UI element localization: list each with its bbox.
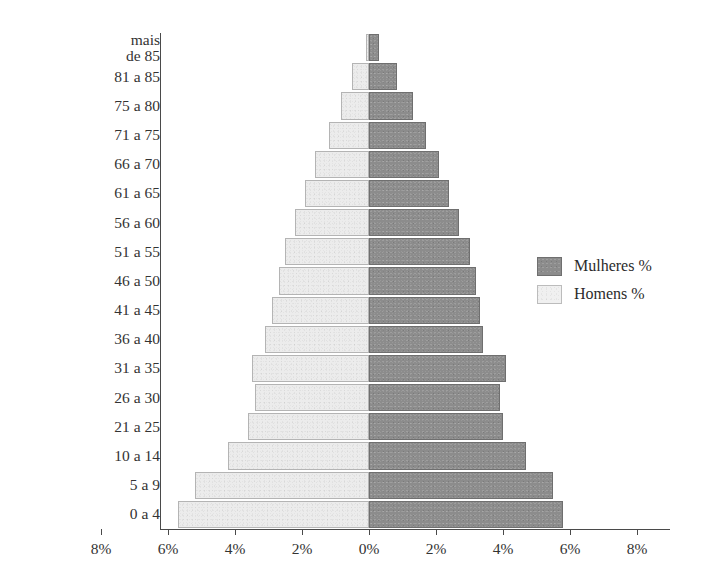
category-label: 61 a 65 — [114, 185, 160, 201]
chart-legend: Mulheres %Homens % — [537, 252, 717, 308]
pyramid-row: 10 a 14 — [0, 441, 726, 470]
x-axis-tick — [436, 529, 437, 535]
bar-homens — [279, 267, 369, 294]
bar-mulheres — [369, 384, 500, 411]
category-label: 71 a 75 — [114, 127, 160, 143]
x-axis-tick-label: 2% — [406, 540, 466, 558]
bar-mulheres — [369, 151, 439, 178]
population-pyramid-chart: mais de 8581 a 8575 a 8071 a 7566 a 7061… — [0, 0, 726, 585]
bar-mulheres — [369, 209, 459, 236]
x-axis-tick-label: 0% — [339, 540, 399, 558]
x-axis-tick — [369, 529, 370, 535]
pyramid-row: 36 a 40 — [0, 325, 726, 354]
category-label: 5 a 9 — [130, 477, 160, 493]
category-label: 41 a 45 — [114, 302, 160, 318]
x-axis-tick-label: 4% — [205, 540, 265, 558]
pyramid-row: 81 a 85 — [0, 62, 726, 91]
x-axis-tick — [302, 529, 303, 535]
category-label: 21 a 25 — [114, 419, 160, 435]
bar-mulheres — [369, 92, 413, 119]
x-axis-tick — [235, 529, 236, 535]
x-axis-tick-label: 8% — [71, 540, 131, 558]
pyramid-row: 56 a 60 — [0, 208, 726, 237]
pyramid-row: 5 a 9 — [0, 471, 726, 500]
bar-mulheres — [369, 122, 426, 149]
legend-item: Homens % — [537, 280, 717, 308]
pyramid-row: 26 a 30 — [0, 383, 726, 412]
legend-label: Mulheres % — [574, 257, 652, 275]
x-axis-tick — [503, 529, 504, 535]
category-label: mais de 85 — [126, 31, 160, 64]
bar-homens — [265, 326, 369, 353]
bar-homens — [341, 92, 369, 119]
x-axis-tick-label: 4% — [473, 540, 533, 558]
x-axis-tick — [570, 529, 571, 535]
legend-swatch-light — [537, 285, 562, 304]
x-axis-tick-label: 6% — [138, 540, 198, 558]
bar-mulheres — [369, 297, 480, 324]
category-label: 46 a 50 — [114, 273, 160, 289]
bar-homens — [228, 442, 369, 469]
x-axis-tick-label: 6% — [540, 540, 600, 558]
category-label: 26 a 30 — [114, 390, 160, 406]
category-label: 0 a 4 — [130, 506, 160, 522]
category-label: 75 a 80 — [114, 98, 160, 114]
x-axis-tick — [637, 529, 638, 535]
y-axis-line — [160, 33, 161, 529]
bar-mulheres — [369, 501, 563, 528]
bar-homens — [195, 472, 369, 499]
category-label: 56 a 60 — [114, 214, 160, 230]
category-label: 81 a 85 — [114, 69, 160, 85]
category-label: 66 a 70 — [114, 156, 160, 172]
bar-homens — [248, 413, 369, 440]
pyramid-row: 0 a 4 — [0, 500, 726, 529]
x-axis-tick — [168, 529, 169, 535]
x-axis-line — [160, 529, 670, 530]
bar-mulheres — [369, 238, 470, 265]
x-axis-tick-label: 2% — [272, 540, 332, 558]
bar-mulheres — [369, 180, 449, 207]
category-label: 31 a 35 — [114, 360, 160, 376]
category-label: 36 a 40 — [114, 331, 160, 347]
bar-homens — [305, 180, 369, 207]
bar-homens — [295, 209, 369, 236]
bar-mulheres — [369, 63, 397, 90]
bar-homens — [352, 63, 369, 90]
bar-homens — [252, 355, 369, 382]
bar-mulheres — [369, 326, 483, 353]
legend-swatch-dark — [537, 257, 562, 276]
pyramid-row: 31 a 35 — [0, 354, 726, 383]
category-label: 10 a 14 — [114, 448, 160, 464]
category-label: 51 a 55 — [114, 244, 160, 260]
x-axis-tick — [101, 529, 102, 535]
pyramid-row: 71 a 75 — [0, 121, 726, 150]
bar-homens — [178, 501, 369, 528]
bar-mulheres — [369, 355, 506, 382]
legend-item: Mulheres % — [537, 252, 717, 280]
pyramid-row: mais de 85 — [0, 33, 726, 62]
pyramid-row: 66 a 70 — [0, 150, 726, 179]
bar-homens — [285, 238, 369, 265]
pyramid-row: 61 a 65 — [0, 179, 726, 208]
bar-mulheres — [369, 413, 503, 440]
bar-homens — [329, 122, 369, 149]
x-axis-tick-label: 8% — [607, 540, 667, 558]
bar-mulheres — [369, 267, 476, 294]
bar-homens — [272, 297, 369, 324]
pyramid-row: 75 a 80 — [0, 91, 726, 120]
pyramid-row: 21 a 25 — [0, 412, 726, 441]
bar-mulheres — [369, 442, 526, 469]
bar-mulheres — [369, 472, 553, 499]
bar-homens — [255, 384, 369, 411]
bar-mulheres — [369, 34, 379, 61]
legend-label: Homens % — [574, 285, 645, 303]
bar-homens — [315, 151, 369, 178]
